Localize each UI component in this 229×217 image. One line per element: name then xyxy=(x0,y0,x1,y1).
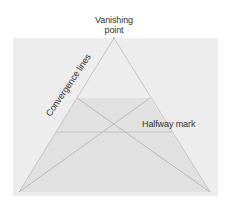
vanishing-point-label-line2: point xyxy=(84,25,144,35)
halfway-mark-label: Halfway mark xyxy=(142,119,195,129)
vanishing-point-marker xyxy=(113,37,115,39)
vanishing-point-label: Vanishing point xyxy=(84,15,144,35)
vanishing-point-label-line1: Vanishing xyxy=(84,15,144,25)
